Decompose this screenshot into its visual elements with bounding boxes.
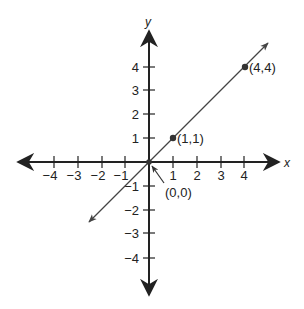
point-1-1-label: (1,1): [177, 131, 204, 146]
svg-text:−4: −4: [43, 168, 58, 183]
svg-text:1: 1: [169, 168, 176, 183]
svg-text:3: 3: [217, 168, 224, 183]
svg-text:4: 4: [240, 168, 247, 183]
x-axis-label: x: [283, 156, 291, 170]
svg-text:3: 3: [132, 83, 139, 98]
origin-label: (0,0): [165, 185, 192, 200]
svg-text:−1: −1: [124, 179, 139, 194]
y-axis-label: y: [144, 15, 152, 29]
svg-text:2: 2: [132, 107, 139, 122]
point-4-4-label: (4,4): [249, 60, 276, 75]
x-tick-labels: −4 −3 −2 −1 1 2 3 4: [43, 168, 248, 183]
svg-text:−2: −2: [124, 203, 139, 218]
coordinate-plane: x y −4 −3 −2 −1 1 2 3 4 4 3 2 1 −1: [0, 0, 304, 309]
svg-text:4: 4: [132, 60, 139, 75]
point-4-4: [242, 64, 248, 70]
point-1-1: [170, 135, 176, 141]
svg-text:1: 1: [132, 131, 139, 146]
svg-text:−2: −2: [91, 168, 106, 183]
svg-text:−4: −4: [124, 251, 139, 266]
origin-annotation-arrow: [152, 166, 164, 183]
svg-text:2: 2: [193, 168, 200, 183]
svg-text:−3: −3: [67, 168, 82, 183]
svg-text:−3: −3: [124, 226, 139, 241]
origin-point: [146, 159, 152, 165]
